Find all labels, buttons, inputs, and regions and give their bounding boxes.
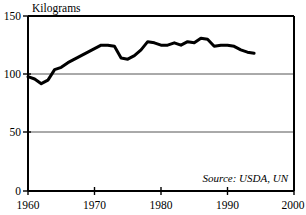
- ytick-label-150: 150: [4, 10, 22, 22]
- ytick-label-0: 0: [15, 185, 21, 197]
- xtick-label-1970: 1970: [83, 199, 106, 211]
- y-axis-title: Kilograms: [32, 2, 81, 15]
- xtick-label-1980: 1980: [150, 199, 173, 211]
- ytick-label-50: 50: [10, 126, 22, 138]
- xtick-label-2000: 2000: [282, 199, 305, 211]
- line-chart: 150 100 50 0 1960 1970 1980 1990 2000 Ki…: [0, 0, 306, 215]
- ytick-label-100: 100: [4, 68, 22, 80]
- chart-figure: 150 100 50 0 1960 1970 1980 1990 2000 Ki…: [0, 0, 306, 215]
- xtick-label-1990: 1990: [216, 199, 239, 211]
- source-annotation: Source: USDA, UN: [203, 172, 289, 184]
- xtick-label-1960: 1960: [17, 199, 40, 211]
